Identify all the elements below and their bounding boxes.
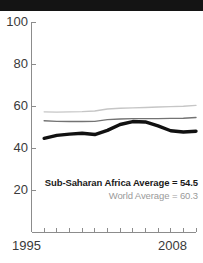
y-tick-80: 80 [0, 56, 28, 72]
x-tick-label-start: 1995 [12, 238, 41, 253]
y-tick-60: 60 [0, 98, 28, 114]
plot-canvas [0, 0, 203, 263]
chart-figure: 100 80 60 40 20 1995 2008 Sub-Saharan Af… [0, 0, 203, 263]
y-tick-20: 20 [0, 182, 28, 198]
y-tick-40: 40 [0, 140, 28, 156]
series-group [44, 105, 196, 138]
x-tick-label-end: 2008 [158, 238, 187, 253]
y-tick-100: 100 [0, 14, 28, 30]
legend-primary-label: Sub-Saharan Africa Average = 54.5 [45, 177, 198, 188]
legend-secondary-label: World Average = 60.3 [109, 190, 198, 201]
